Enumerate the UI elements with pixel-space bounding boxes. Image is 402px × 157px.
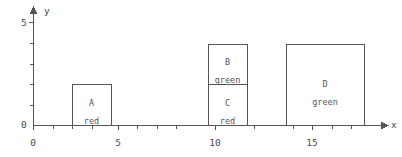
- block-a-color-word: red: [84, 117, 99, 126]
- x-tick-label-10: 10: [209, 138, 220, 148]
- block-b-color-word: green: [215, 76, 241, 85]
- block-b-name: B: [225, 58, 230, 67]
- y-axis-label: y: [44, 6, 50, 16]
- y-tick-label-5: 5: [21, 18, 27, 28]
- block-c-color-word: red: [220, 117, 235, 126]
- chart-svg: [0, 0, 402, 157]
- x-axis-label: x: [391, 120, 397, 130]
- x-tick-label-0: 0: [30, 138, 36, 148]
- block-d-name: D: [322, 80, 327, 89]
- block-c-name: C: [225, 99, 230, 108]
- x-tick-label-15: 15: [306, 138, 317, 148]
- y-tick-label-0: 0: [21, 120, 27, 130]
- chart-canvas: y x 5 0 0 5 10 15 A red C red B green D …: [0, 0, 402, 157]
- block-d-color-word: green: [312, 98, 338, 107]
- x-axis-arrow: [381, 122, 389, 130]
- y-axis-arrow: [30, 6, 38, 14]
- x-tick-label-5: 5: [115, 138, 121, 148]
- y-tick-marks: [29, 23, 33, 106]
- axes-group: [33, 14, 381, 126]
- block-a-name: A: [89, 99, 94, 108]
